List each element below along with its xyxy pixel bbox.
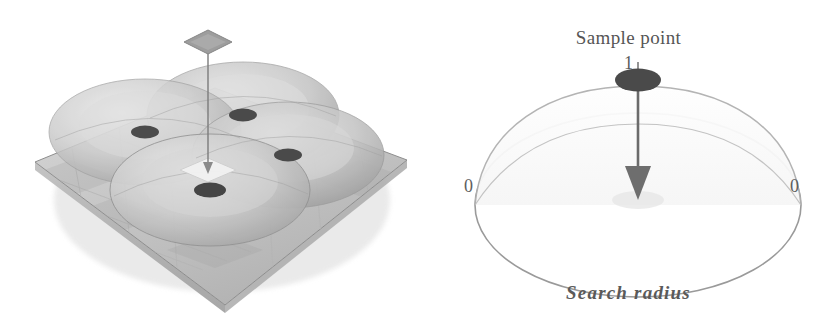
sample-point-dot (274, 149, 302, 162)
figure-root: Sample point 1 0 0 Search radius (0, 0, 837, 323)
search-radius-label: Search radius (420, 283, 837, 302)
sample-point-dot (131, 126, 159, 139)
zero-value-right-label: 0 (790, 177, 799, 195)
sample-point-label: Sample point (420, 28, 837, 47)
kernel-cross-section-panel: Sample point 1 0 0 Search radius (420, 0, 837, 323)
sample-point-dot (229, 109, 257, 122)
3d-surface-panel (0, 0, 420, 323)
sample-point-dot (194, 183, 226, 198)
zero-value-left-label: 0 (464, 177, 473, 195)
peak-value-label: 1 (420, 54, 837, 72)
3d-surface-graphic (0, 0, 420, 323)
kernel-cross-section-graphic (420, 0, 837, 323)
